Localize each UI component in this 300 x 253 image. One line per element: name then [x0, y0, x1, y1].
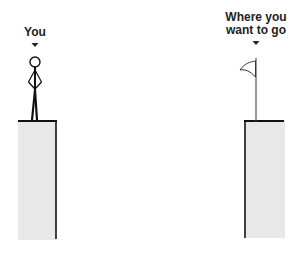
- you-pointer-icon: [32, 43, 39, 47]
- right-cliff: [244, 120, 285, 238]
- stick-figure-icon: [29, 57, 42, 120]
- left-cliff: [18, 120, 57, 240]
- gap-diagram: [0, 0, 300, 253]
- flag-icon: [240, 58, 256, 121]
- goal-pointer-icon: [253, 41, 260, 45]
